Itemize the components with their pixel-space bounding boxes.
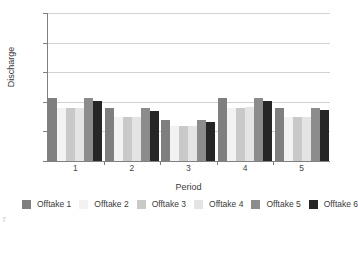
legend-swatch: [194, 200, 203, 209]
bar: [293, 117, 302, 161]
legend-swatch: [251, 200, 260, 209]
bar: [188, 126, 197, 161]
bar: [311, 108, 320, 161]
x-axis-label: Period: [47, 182, 330, 192]
bar-group: [217, 13, 274, 161]
bar: [123, 117, 132, 161]
bar: [254, 98, 263, 161]
legend-swatch: [79, 200, 88, 209]
legend-item[interactable]: Offtake 5: [251, 196, 300, 212]
bar: [66, 108, 75, 161]
bar: [132, 117, 141, 161]
bar: [48, 98, 57, 161]
legend-swatch: [22, 200, 31, 209]
bar: [320, 110, 329, 161]
bar: [170, 126, 179, 161]
bar: [263, 101, 272, 161]
edge-artifact-mark: r: [3, 214, 6, 224]
bar: [218, 98, 227, 161]
x-axis-tick-labels: 12345: [47, 163, 330, 173]
legend-item[interactable]: Offtake 1: [22, 196, 71, 212]
y-axis-label: Discharge: [6, 32, 16, 102]
bar: [161, 120, 170, 161]
y-tick-mark: [43, 161, 47, 162]
bar: [284, 117, 293, 161]
bar: [245, 107, 254, 161]
legend-label: Offtake 3: [152, 199, 186, 209]
bar-group: [104, 13, 161, 161]
bar: [114, 117, 123, 161]
x-tick-label: 2: [104, 163, 161, 173]
bar: [75, 108, 84, 161]
bar: [57, 108, 66, 161]
bar: [93, 101, 102, 161]
legend-item[interactable]: Offtake 3: [137, 196, 186, 212]
chart-legend: Offtake 1Offtake 2Offtake 3Offtake 4Offt…: [22, 196, 182, 212]
bar: [84, 98, 93, 161]
legend-item[interactable]: Offtake 6: [309, 196, 358, 212]
x-tick-label: 3: [160, 163, 217, 173]
x-tick-label: 4: [217, 163, 274, 173]
legend-label: Offtake 4: [209, 199, 243, 209]
legend-label: Offtake 2: [94, 199, 128, 209]
legend-swatch: [309, 200, 318, 209]
bar-group: [273, 13, 330, 161]
bar-groups: [47, 13, 330, 161]
bar: [236, 108, 245, 161]
x-tick-label: 1: [47, 163, 104, 173]
bar: [105, 108, 114, 161]
legend-label: Offtake 6: [324, 199, 358, 209]
legend-label: Offtake 1: [37, 199, 71, 209]
bar-group: [47, 13, 104, 161]
bar: [141, 108, 150, 161]
x-tick-label: 5: [273, 163, 330, 173]
bar: [275, 108, 284, 161]
bar: [227, 108, 236, 161]
legend-label: Offtake 5: [266, 199, 300, 209]
bar: [197, 120, 206, 161]
bar: [206, 122, 215, 161]
bar: [179, 126, 188, 161]
bar: [150, 111, 159, 161]
bar: [302, 117, 311, 161]
legend-item[interactable]: Offtake 4: [194, 196, 243, 212]
bar-group: [160, 13, 217, 161]
legend-swatch: [137, 200, 146, 209]
legend-item[interactable]: Offtake 2: [79, 196, 128, 212]
x-axis-line: [47, 161, 330, 162]
